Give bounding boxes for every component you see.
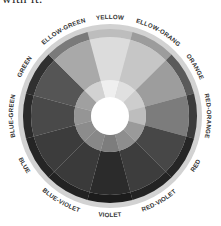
label-yellow: YELLOW (95, 13, 124, 21)
color-wheel: YELLOWYELLOW-ORANGEORANGERED-ORANGEREDRE… (0, 0, 221, 226)
label-red-orange: RED-ORANGE (204, 93, 214, 139)
label-violet: VIOLET (98, 210, 122, 218)
center-hole (91, 97, 129, 135)
label-blue-green: BLUE-GREEN (7, 93, 16, 138)
